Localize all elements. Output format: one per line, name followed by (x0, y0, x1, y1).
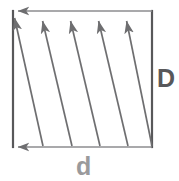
boundary-rectangle (13, 11, 152, 147)
diagonal-arrow-2 (43, 21, 72, 146)
diagram-canvas: D d (0, 0, 179, 181)
diagonal-arrow-1 (15, 18, 43, 146)
dimension-label-vertical: D (157, 66, 175, 91)
dimension-label-horizontal: d (76, 154, 91, 179)
diagonal-arrow-3 (71, 21, 100, 146)
diagonal-arrows (15, 18, 152, 146)
diagonal-arrow-4 (99, 21, 128, 146)
diagonal-arrow-5 (127, 21, 152, 146)
